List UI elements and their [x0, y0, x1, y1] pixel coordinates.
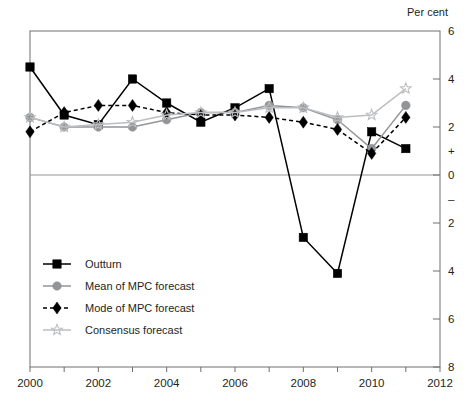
data-point-marker [367, 128, 375, 136]
series-line [30, 67, 406, 273]
data-point-marker [26, 126, 34, 138]
data-point-marker [299, 116, 307, 128]
y-axis-tick-label: 4 [448, 73, 455, 85]
data-point-marker [402, 144, 410, 152]
data-point-marker [402, 111, 410, 123]
unit-label: Per cent [407, 6, 448, 18]
y-axis-tick-label: 0 [448, 169, 454, 181]
x-axis-tick-label: 2008 [291, 377, 317, 389]
y-axis-tick-label: 6 [448, 313, 454, 325]
x-axis-tick-label: 2010 [359, 377, 385, 389]
x-axis-tick-label: 2012 [427, 377, 453, 389]
series-mode-of-mpc-forecast [26, 99, 410, 159]
legend-item-consensus-forecast[interactable]: Consensus forecast [43, 324, 182, 336]
forecast-line-chart: Per cent 2000200220042006200820102012 64… [0, 0, 476, 406]
legend-label: Consensus forecast [85, 324, 182, 336]
legend-marker [53, 302, 61, 314]
plot-area-border [30, 31, 440, 367]
series-layer [25, 63, 411, 278]
data-point-marker [402, 101, 411, 110]
legend-item-mode-of-mpc-forecast[interactable]: Mode of MPC forecast [43, 302, 194, 314]
data-point-marker [299, 233, 307, 241]
data-point-marker [265, 84, 273, 92]
chart-container: Per cent 2000200220042006200820102012 64… [0, 0, 476, 406]
data-point-marker [333, 269, 341, 277]
x-axis-ticks: 2000200220042006200820102012 [17, 367, 453, 389]
y-axis-sign-marker: – [448, 193, 455, 205]
y-axis-tick-label: 2 [448, 217, 454, 229]
plot-frame [30, 31, 440, 367]
legend-marker [53, 282, 62, 291]
chart-legend: OutturnMean of MPC forecastMode of MPC f… [43, 258, 194, 336]
x-axis-tick-label: 2004 [154, 377, 180, 389]
legend-item-outturn[interactable]: Outturn [43, 258, 122, 270]
legend-label: Mode of MPC forecast [85, 302, 194, 314]
y-axis-ticks: 64202468+– [433, 25, 455, 373]
x-axis-tick-label: 2002 [86, 377, 112, 389]
y-axis-sign-marker: + [448, 145, 455, 157]
data-point-marker [26, 63, 34, 71]
unit-label-text: Per cent [407, 6, 448, 18]
y-axis-tick-label: 8 [448, 361, 454, 373]
y-axis-tick-label: 4 [448, 265, 455, 277]
y-axis-tick-label: 6 [448, 25, 454, 37]
legend-marker [53, 260, 61, 268]
legend-item-mean-of-mpc-forecast[interactable]: Mean of MPC forecast [43, 280, 194, 292]
data-point-marker [265, 111, 273, 123]
x-axis-tick-label: 2000 [17, 377, 43, 389]
legend-label: Outturn [85, 258, 122, 270]
x-axis-tick-label: 2006 [222, 377, 248, 389]
data-point-marker [128, 99, 136, 111]
data-point-marker [128, 75, 136, 83]
y-axis-tick-label: 2 [448, 121, 454, 133]
series-outturn [26, 63, 410, 278]
legend-label: Mean of MPC forecast [85, 280, 194, 292]
data-point-marker [162, 99, 170, 107]
series-consensus-forecast [25, 83, 411, 132]
data-point-marker [333, 123, 341, 135]
data-point-marker [94, 99, 102, 111]
